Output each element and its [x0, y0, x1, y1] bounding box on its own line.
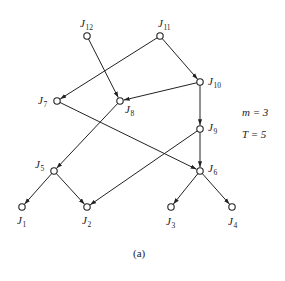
node-label-j1: J1 [17, 214, 26, 229]
edge-j5-to-j2 [56, 173, 84, 204]
node-label-j2: J2 [82, 214, 91, 229]
node-label-j10: J10 [208, 75, 221, 90]
edges-layer [25, 38, 230, 205]
node-j10 [197, 79, 203, 85]
param-m: m = 3 [242, 106, 269, 118]
node-label-j3: J3 [166, 215, 175, 230]
edge-j8-to-j5 [57, 103, 118, 168]
node-j4 [229, 204, 235, 210]
node-label-j11: J11 [158, 17, 171, 32]
node-j11 [157, 33, 163, 39]
node-j2 [84, 204, 90, 210]
node-label-j6: J6 [208, 162, 217, 177]
node-j8 [117, 98, 123, 104]
edge-j11-to-j7 [60, 38, 157, 99]
figure-caption: (a) [133, 247, 146, 260]
node-j12 [84, 33, 90, 39]
node-label-j7: J7 [38, 94, 47, 109]
node-j9 [197, 126, 203, 132]
nodes-layer [19, 33, 235, 210]
edge-j10-to-j8 [124, 83, 197, 100]
node-j1 [19, 204, 25, 210]
node-label-j8: J8 [125, 103, 134, 118]
node-label-j12: J12 [80, 17, 93, 32]
node-label-j4: J4 [228, 215, 237, 230]
param-T: T = 5 [242, 128, 267, 140]
edge-j11-to-j10 [162, 38, 197, 79]
node-label-j5: J5 [35, 158, 44, 173]
edge-j5-to-j1 [25, 173, 52, 204]
edge-j6-to-j4 [202, 173, 229, 204]
node-j3 [168, 204, 174, 210]
edge-j12-to-j8 [88, 39, 118, 98]
labels-layer: J12J11J10J7J8J9J5J6J1J2J3J4 [17, 17, 237, 230]
node-j5 [51, 168, 57, 174]
node-label-j9: J9 [208, 121, 217, 136]
precedence-graph: J12J11J10J7J8J9J5J6J1J2J3J4 m = 3 T = 5 … [0, 0, 285, 281]
edge-j6-to-j3 [173, 173, 198, 204]
node-j6 [197, 168, 203, 174]
node-j7 [54, 98, 60, 104]
